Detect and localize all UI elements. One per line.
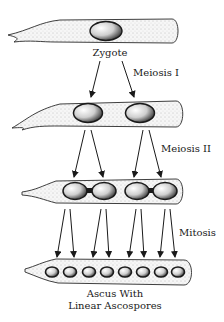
meiosis-2-label: Meiosis II [161,143,211,154]
meiosis-2-arrows [74,130,161,177]
ascus-label-line2: Linear Ascospores [68,300,161,311]
zygote-cell [8,19,178,43]
two-nuclei-cell [12,101,183,130]
ascus-cell [25,259,192,285]
ascus-diagram: Zygote Meiosis I Meiosis II [0,0,224,322]
mitosis-label: Mitosis [179,227,216,238]
nucleus [74,104,103,123]
ascus-label-line1: Ascus With [86,288,144,299]
meiosis-1-label: Meiosis I [133,67,179,78]
four-nuclei-cell [22,179,183,204]
zygote-label: Zygote [93,47,128,58]
zygote-nucleus [90,22,122,41]
nucleus [126,104,155,123]
mitosis-arrows [57,209,175,257]
meiosis-1-arrows [91,61,134,97]
